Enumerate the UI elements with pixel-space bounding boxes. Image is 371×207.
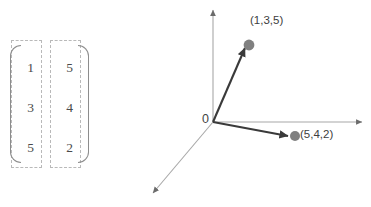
matrix-cell: 5 xyxy=(11,128,50,168)
vector-to-point-1 xyxy=(213,48,245,122)
matrix-row: 3 4 xyxy=(6,88,92,128)
figure-canvas: 1 5 3 4 5 2 xyxy=(0,0,371,207)
matrix-cell: 5 xyxy=(50,48,89,88)
matrix-row: 1 5 xyxy=(6,48,92,88)
matrix-cell: 3 xyxy=(11,88,50,128)
data-point-2-label: (5,4,2) xyxy=(300,128,333,140)
vector-diagram-svg xyxy=(140,0,371,207)
matrix-grid: 1 5 3 4 5 2 xyxy=(6,40,92,168)
matrix-cell: 2 xyxy=(50,128,89,168)
data-point-1-label: (1,3,5) xyxy=(250,14,283,26)
matrix-cell: 1 xyxy=(11,48,50,88)
vector-diagram: (1,3,5) (5,4,2) 0 xyxy=(140,0,371,207)
matrix-row: 5 2 xyxy=(6,128,92,168)
origin-label: 0 xyxy=(202,112,209,126)
depth-axis xyxy=(153,122,213,193)
data-point-1 xyxy=(244,40,255,51)
vector-to-point-2 xyxy=(213,122,288,136)
matrix-figure: 1 5 3 4 5 2 xyxy=(6,40,92,168)
data-point-2 xyxy=(290,131,300,141)
matrix-cell: 4 xyxy=(50,88,89,128)
